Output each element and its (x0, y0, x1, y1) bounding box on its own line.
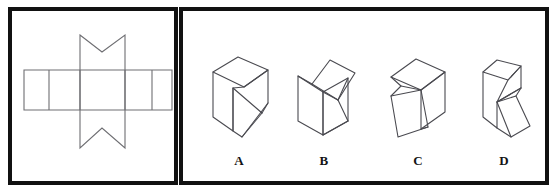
option-d-upper-panel (497, 66, 521, 102)
option-b-left-wall (298, 76, 323, 135)
option-a-solid (213, 57, 268, 137)
option-b-label: B (320, 153, 329, 168)
option-a-lower-edge (242, 113, 262, 137)
option-c-right-face (421, 72, 445, 129)
option-a-lower-right-edge (262, 103, 268, 113)
option-c-label: C (413, 153, 423, 168)
option-c-front-flap (391, 90, 428, 137)
option-a-label: A (234, 153, 244, 168)
net-horizontal-strip (24, 70, 172, 110)
option-c-crease (401, 86, 421, 90)
option-a-left-face (213, 72, 233, 131)
net-vertical-band (80, 35, 125, 148)
option-a-fold-edge (233, 88, 262, 113)
option-c-left-notch (391, 77, 401, 96)
option-c-solid (391, 59, 445, 137)
option-a-top-face (213, 57, 268, 87)
option-d-solid (483, 60, 530, 137)
option-d-top-face (483, 60, 521, 80)
figure-canvas: A B C D (0, 0, 556, 195)
option-b-crease-b (338, 100, 348, 121)
puzzle-figure: A B C D (0, 0, 556, 195)
net-panel-border (10, 9, 176, 183)
option-b-flap-edge-left (298, 76, 312, 84)
unfolded-net (24, 35, 172, 148)
option-b-solid (298, 60, 355, 135)
option-d-left-face (483, 72, 497, 128)
option-c-top-face (391, 59, 445, 90)
option-d-label: D (499, 153, 509, 168)
option-b-crease-a (323, 92, 338, 100)
option-b-bottom-edge (323, 121, 348, 135)
